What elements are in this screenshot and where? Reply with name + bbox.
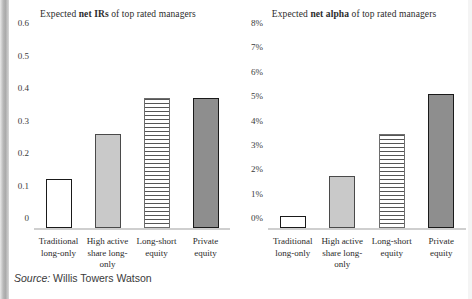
y-axis-tick: 8% bbox=[251, 18, 263, 28]
y-axis-tick: 0% bbox=[251, 213, 263, 223]
bar-traditional-long-only bbox=[280, 216, 306, 228]
bar-column bbox=[268, 33, 318, 228]
x-axis-label-line: Traditional bbox=[34, 236, 83, 248]
bar-column bbox=[367, 33, 417, 228]
y-axis-tick: 0.1 bbox=[18, 181, 29, 191]
bar-column bbox=[83, 33, 132, 228]
chart-title-emphasis: net IRs bbox=[79, 9, 109, 19]
x-axis-label-line: Private bbox=[417, 236, 467, 248]
bar-column bbox=[34, 33, 83, 228]
y-axis-tick: 1% bbox=[251, 189, 263, 199]
bar-high-active-share-long-only bbox=[329, 176, 355, 228]
x-axis-baseline bbox=[268, 228, 466, 230]
x-axis-label: High activeshare long-only bbox=[318, 236, 368, 271]
y-axis-tick: 3% bbox=[251, 140, 263, 150]
x-axis-label-line: equity bbox=[367, 248, 417, 260]
chart-title-suffix: of top rated managers bbox=[349, 9, 436, 19]
plot-area-net-irs: 00.10.20.30.40.50.6 bbox=[34, 33, 230, 230]
y-axis-tick: 0.4 bbox=[18, 83, 29, 93]
y-axis-tick: 0.6 bbox=[18, 18, 29, 28]
figure-container: Expected net IRs of top rated managers 0… bbox=[0, 0, 472, 299]
y-axis-tick: 0 bbox=[25, 213, 30, 223]
chart-title-net-alpha: Expected net alpha of top rated managers bbox=[236, 9, 472, 19]
source-label: Source: bbox=[14, 272, 50, 284]
x-axis-label-line: High active bbox=[83, 236, 132, 248]
chart-net-alpha: Expected net alpha of top rated managers… bbox=[236, 0, 472, 270]
chart-title-emphasis: net alpha bbox=[310, 9, 349, 19]
plot-area-net-alpha: 0%1%2%3%4%5%6%7%8% bbox=[268, 33, 466, 230]
x-axis-label: High activeshare long-only bbox=[83, 236, 132, 271]
bar-column bbox=[181, 33, 230, 228]
y-axis-tick: 4% bbox=[251, 116, 263, 126]
y-axis-tick: 6% bbox=[251, 67, 263, 77]
bar-long-short-equity bbox=[379, 134, 405, 228]
x-axis-baseline bbox=[34, 228, 230, 230]
x-axis-label: Long-shortequity bbox=[367, 236, 417, 271]
chart-title-net-irs: Expected net IRs of top rated managers bbox=[0, 9, 236, 19]
x-axis-label: Privateequity bbox=[181, 236, 230, 271]
chart-title-suffix: of top rated managers bbox=[109, 9, 196, 19]
bar-private-equity bbox=[428, 94, 454, 228]
x-axis-label-line: long-only bbox=[268, 248, 318, 260]
x-axis-label-line: share long- bbox=[83, 248, 132, 260]
y-axis-tick: 7% bbox=[251, 42, 263, 52]
chart-net-irs: Expected net IRs of top rated managers 0… bbox=[0, 0, 236, 270]
x-axis-label-line: Private bbox=[181, 236, 230, 248]
x-axis-label: Privateequity bbox=[417, 236, 467, 271]
x-axis-label-line: long-only bbox=[34, 248, 83, 260]
bar-long-short-equity bbox=[144, 98, 170, 228]
x-axis-label-line: Long-short bbox=[367, 236, 417, 248]
bar-high-active-share-long-only bbox=[95, 134, 121, 228]
x-axis-label: Traditionallong-only bbox=[34, 236, 83, 271]
y-axis-tick: 0.3 bbox=[18, 116, 29, 126]
x-axis-label-line: equity bbox=[181, 248, 230, 260]
x-axis-label-line: High active bbox=[318, 236, 368, 248]
x-axis-label-line: Long-short bbox=[132, 236, 181, 248]
x-axis-label: Long-shortequity bbox=[132, 236, 181, 271]
chart-title-prefix: Expected bbox=[272, 9, 311, 19]
chart-title-prefix: Expected bbox=[40, 9, 79, 19]
x-axis-label-line: share long- bbox=[318, 248, 368, 260]
x-axis-label-line: equity bbox=[417, 248, 467, 260]
bar-group-net-irs bbox=[34, 33, 230, 228]
y-axis-tick: 0.2 bbox=[18, 148, 29, 158]
x-axis-label: Traditionallong-only bbox=[268, 236, 318, 271]
y-axis-tick: 0.5 bbox=[18, 51, 29, 61]
x-axis-label-line: Traditional bbox=[268, 236, 318, 248]
x-axis-labels-net-irs: Traditionallong-onlyHigh activeshare lon… bbox=[34, 236, 230, 271]
bar-column bbox=[417, 33, 467, 228]
source-name: Willis Towers Watson bbox=[53, 272, 152, 284]
x-axis-label-line: only bbox=[318, 259, 368, 271]
bar-private-equity bbox=[193, 98, 219, 228]
x-axis-label-line: only bbox=[83, 259, 132, 271]
bar-group-net-alpha bbox=[268, 33, 466, 228]
bar-column bbox=[318, 33, 368, 228]
y-axis-tick: 2% bbox=[251, 164, 263, 174]
source-attribution: Source: Willis Towers Watson bbox=[14, 272, 152, 284]
x-axis-label-line: equity bbox=[132, 248, 181, 260]
bar-traditional-long-only bbox=[46, 179, 72, 228]
x-axis-labels-net-alpha: Traditionallong-onlyHigh activeshare lon… bbox=[268, 236, 466, 271]
y-axis-tick: 5% bbox=[251, 91, 263, 101]
bar-column bbox=[132, 33, 181, 228]
